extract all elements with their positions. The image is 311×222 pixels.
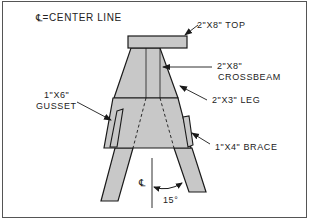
centerline-legend: ℄=CENTER LINE [36, 13, 122, 23]
label-angle: 15° [163, 195, 178, 205]
centerline-legend-text: =CENTER LINE [43, 12, 122, 23]
label-crossbeam-size: 2"X8" [217, 61, 242, 71]
legs [101, 148, 206, 201]
label-crossbeam: CROSSBEAM [218, 72, 281, 82]
label-brace: 1"X4" BRACE [215, 142, 278, 152]
label-gusset: GUSSET [36, 101, 77, 111]
centerline-symbol: ℄ [36, 12, 43, 23]
label-leg: 2"X3" LEG [212, 95, 260, 105]
label-gusset-size: 1"X6" [44, 90, 69, 100]
left-leg [101, 148, 133, 201]
angle-arc [154, 183, 182, 189]
label-top: 2"X8" TOP [197, 20, 245, 30]
sawhorse-drawing [0, 0, 311, 222]
centerline-mark: ℄ [139, 178, 146, 188]
top-board [128, 36, 187, 48]
